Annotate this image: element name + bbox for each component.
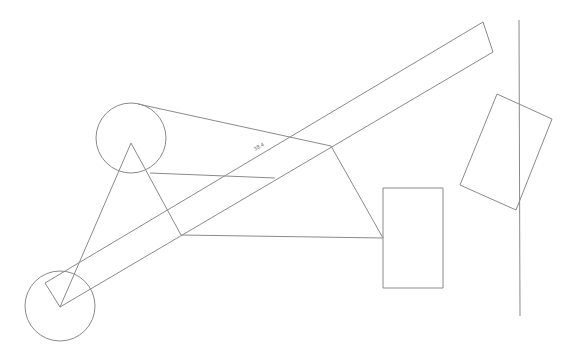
inclined-bar-lower-edge-line bbox=[60, 52, 493, 307]
cross-member-line bbox=[150, 173, 275, 178]
upright-block-rect bbox=[383, 188, 443, 288]
drawing-canvas: 38.4 bbox=[0, 0, 573, 360]
inclined-bar-start-cap-line bbox=[45, 283, 60, 307]
tilted-block-rect bbox=[460, 94, 552, 210]
quad-linkage-line bbox=[138, 104, 383, 238]
dimension-label: 38.4 bbox=[252, 141, 265, 152]
vertical-wall-line bbox=[519, 20, 520, 316]
triangle-link-line bbox=[60, 143, 181, 307]
mechanism-diagram: 38.4 bbox=[0, 0, 573, 360]
shapes-group bbox=[25, 20, 552, 341]
inclined-bar-upper-edge-line bbox=[45, 22, 483, 283]
inclined-bar-end-cap-line bbox=[483, 22, 493, 52]
upper-pulley-circle bbox=[96, 103, 166, 173]
